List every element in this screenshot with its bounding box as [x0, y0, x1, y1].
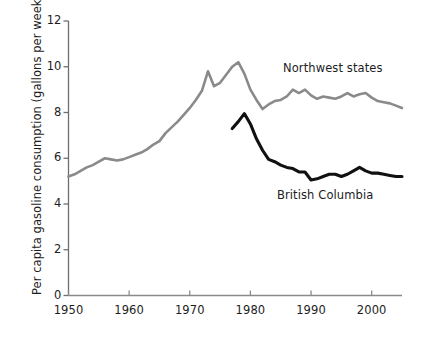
y-tick-label: 8	[40, 105, 62, 119]
y-tick-label: 4	[40, 196, 62, 210]
y-tick-label: 0	[40, 288, 62, 302]
x-tick-label: 2000	[352, 303, 392, 317]
x-tick-label: 1970	[170, 303, 210, 317]
x-axis-ticks	[69, 291, 372, 296]
series-label-british-columbia: British Columbia	[277, 188, 373, 202]
x-tick-label: 1950	[49, 303, 89, 317]
series-line-british-columbia	[232, 114, 402, 180]
y-tick-label: 12	[40, 13, 62, 27]
series-label-northwest-states: Northwest states	[283, 61, 383, 75]
y-tick-label: 10	[40, 59, 62, 73]
y-tick-label: 2	[40, 242, 62, 256]
y-axis-ticks	[64, 21, 69, 296]
x-tick-label: 1990	[291, 303, 331, 317]
x-tick-label: 1980	[230, 303, 270, 317]
chart-plot-area	[0, 0, 427, 339]
series-line-northwest-states	[69, 62, 403, 176]
x-tick-label: 1960	[109, 303, 149, 317]
gasoline-consumption-chart: Per capita gasoline consumption (gallons…	[0, 0, 427, 339]
y-tick-label: 6	[40, 150, 62, 164]
